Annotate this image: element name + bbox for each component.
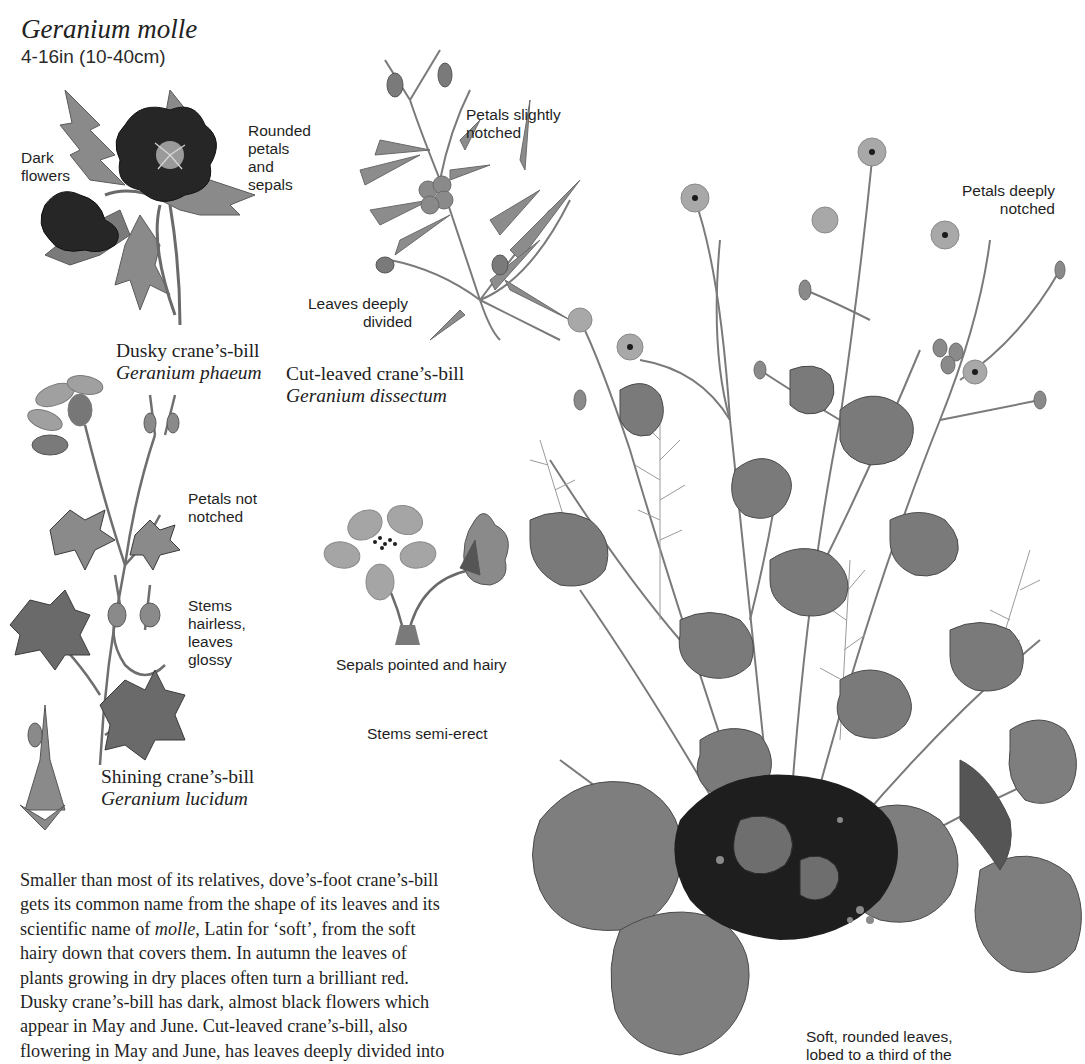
label-petals-deeply-notched: Petals deeply notched <box>962 182 1055 218</box>
geranium-molle-plant-illustration <box>520 120 1085 1059</box>
emphasis-molle: molle <box>155 919 195 939</box>
description-paragraph: Smaller than most of its relatives, dove… <box>20 868 540 1063</box>
dusky-cranesbill-illustration <box>30 85 270 335</box>
shining-cranesbill-illustration <box>5 365 190 830</box>
label-stems-semi-erect: Stems semi-erect <box>367 725 488 743</box>
species-title: Geranium molle <box>21 14 197 45</box>
geranium-molle-flower-detail <box>320 500 510 650</box>
label-soft-rounded-leaves: Soft, rounded leaves, lobed to a third o… <box>806 1028 953 1064</box>
label-rounded-petals: Rounded petals and sepals <box>248 122 311 194</box>
label-stems-hairless: Stems hairless, leaves glossy <box>188 597 246 669</box>
common-name: Shining crane’s-bill <box>101 766 254 788</box>
label-dark-flowers: Dark flowers <box>21 149 70 185</box>
plant-height-range: 4-16in (10-40cm) <box>21 46 166 68</box>
scientific-name: Geranium dissectum <box>286 385 464 407</box>
label-leaves-deeply-divided: Leaves deeply divided <box>308 295 412 331</box>
label-sepals-pointed-hairy: Sepals pointed and hairy <box>336 656 507 674</box>
common-name: Cut-leaved crane’s-bill <box>286 363 464 385</box>
label-petals-not-notched: Petals not notched <box>188 490 257 526</box>
scientific-name: Geranium lucidum <box>101 788 254 810</box>
caption-cut-leaved-cranesbill: Cut-leaved crane’s-bill Geranium dissect… <box>286 363 464 407</box>
common-name: Dusky crane’s-bill <box>116 340 262 362</box>
caption-shining-cranesbill: Shining crane’s-bill Geranium lucidum <box>101 766 254 810</box>
